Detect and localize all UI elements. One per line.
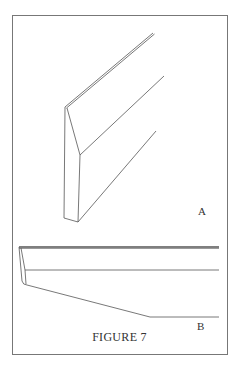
part-a-drawing [64, 33, 164, 222]
figure-frame [13, 16, 228, 355]
figure-caption: FIGURE 7 [0, 330, 239, 345]
part-b-drawing [19, 247, 219, 317]
part-a-label: A [198, 205, 206, 217]
figure-drawing [0, 0, 239, 370]
